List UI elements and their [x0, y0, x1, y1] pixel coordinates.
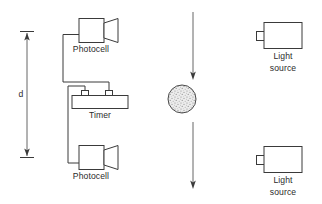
- photocell-top: [79, 19, 118, 43]
- free-fall-apparatus-diagram: d Photocell Timer Photocell Light source…: [0, 0, 322, 204]
- motion-arrow-bottom: [190, 122, 196, 189]
- distance-label: d: [14, 89, 28, 99]
- light-source-top-label-line2: source: [258, 63, 308, 75]
- timer-label: Timer: [72, 110, 128, 120]
- light-source-bottom-label: Light source: [258, 175, 308, 198]
- photocell-top-label: Photocell: [60, 44, 122, 54]
- photocell-bottom-label: Photocell: [60, 171, 122, 181]
- falling-ball: [168, 85, 196, 113]
- light-source-bottom-label-line2: source: [258, 187, 308, 199]
- motion-arrow-top: [190, 12, 196, 80]
- light-source-bottom: [257, 147, 303, 173]
- timer-unit: [72, 91, 128, 109]
- diagram-canvas: [0, 0, 322, 204]
- light-source-top-label-line1: Light: [258, 51, 308, 63]
- photocell-bottom: [79, 146, 118, 170]
- light-source-top-label: Light source: [258, 51, 308, 74]
- light-source-bottom-label-line1: Light: [258, 175, 308, 187]
- light-source-top: [257, 23, 303, 49]
